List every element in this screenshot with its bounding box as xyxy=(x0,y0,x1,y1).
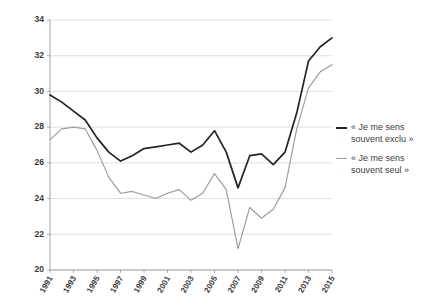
y-tick-label: 34 xyxy=(35,14,45,24)
y-axis-tick-labels: 2022242628303234 xyxy=(35,14,45,274)
legend-label-seul: « Je me sens souvent seul » xyxy=(351,152,409,176)
x-tick-label: 1997 xyxy=(109,274,126,294)
x-tick-label: 1991 xyxy=(38,274,55,294)
y-tick-label: 28 xyxy=(35,121,45,131)
x-tick-label: 1995 xyxy=(85,274,102,294)
x-tick-label: 1999 xyxy=(132,274,149,294)
x-tick-label: 2001 xyxy=(156,274,173,294)
x-tick-label: 2009 xyxy=(250,274,267,294)
legend-item-exclu: « Je me sens souvent exclu » xyxy=(336,121,438,145)
y-tick-label: 20 xyxy=(35,264,45,274)
y-tick-label: 22 xyxy=(35,229,45,239)
x-tick-label: 2011 xyxy=(273,274,290,294)
y-tick-label: 30 xyxy=(35,86,45,96)
series-line-seul xyxy=(50,65,332,249)
x-tick-label: 2003 xyxy=(179,274,196,294)
legend-swatch-seul-icon xyxy=(336,158,347,159)
x-tick-label: 2015 xyxy=(320,274,337,294)
x-axis-tickmarks xyxy=(50,270,332,273)
line-chart: 2022242628303234 19911993199519971999200… xyxy=(0,0,438,305)
x-tick-label: 2005 xyxy=(203,274,220,294)
y-tick-label: 32 xyxy=(35,50,45,60)
legend-label-exclu: « Je me sens souvent exclu » xyxy=(351,121,414,145)
x-tick-label: 1993 xyxy=(62,274,79,294)
y-tick-label: 26 xyxy=(35,157,45,167)
x-tick-label: 2013 xyxy=(297,274,314,294)
x-axis-tick-labels: 1991199319951997199920012003200520072009… xyxy=(38,274,337,294)
gridlines xyxy=(47,20,332,270)
x-tick-label: 2007 xyxy=(226,274,243,294)
legend-swatch-exclu-icon xyxy=(336,127,347,129)
legend-item-seul: « Je me sens souvent seul » xyxy=(336,152,438,176)
chart-legend: « Je me sens souvent exclu » « Je me sen… xyxy=(336,121,438,183)
y-tick-label: 24 xyxy=(35,193,45,203)
